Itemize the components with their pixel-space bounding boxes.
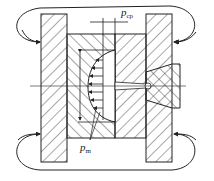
mold-diagram: pcp pm — [0, 0, 214, 181]
label-pm: pm — [79, 141, 92, 155]
label-pcp: pcp — [120, 6, 134, 20]
bottom-right-arrow — [174, 134, 196, 140]
top-right-arrow — [174, 32, 196, 42]
bottom-left-arrow — [18, 134, 40, 140]
left-platen — [41, 14, 67, 162]
top-left-loop-arrow — [22, 30, 40, 42]
